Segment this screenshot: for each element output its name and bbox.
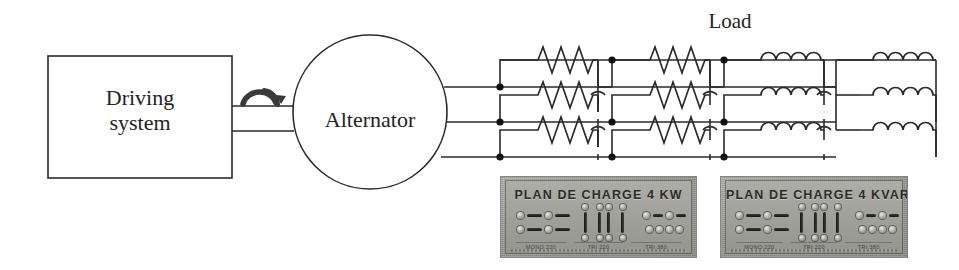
vertical-link-icon[interactable] [835,204,841,241]
socket-icon[interactable] [889,226,896,233]
diagram-canvas: Driving system Alternator Load PLAN DE C… [0,0,959,270]
socket-icon[interactable] [643,212,650,219]
link-bar-icon[interactable] [676,214,686,217]
panel-kw-group-tri220[interactable] [575,207,633,237]
load-title: Load [660,10,800,34]
panel-kw-group-tri380[interactable] [633,207,696,237]
panel-faceplate: PLAN DE CHARGE 4 KW [506,181,691,253]
inductor-bank-2 [836,53,936,158]
socket-icon[interactable] [879,226,886,233]
driving-system-label-line2: system [48,111,232,136]
socket-icon[interactable] [736,212,743,219]
socket-icon[interactable] [545,212,552,219]
rotation-arrow-icon [243,90,286,105]
panel-kvar-title: PLAN DE CHARGE 4 KVAR [726,188,902,202]
socket-icon[interactable] [666,212,673,219]
socket-icon[interactable] [764,226,771,233]
link-bar-icon[interactable] [746,228,761,231]
link-bar-icon[interactable] [774,228,789,231]
socket-icon[interactable] [856,212,863,219]
panel-kvar-bottom-strip [731,249,897,252]
panel-kvar-controls [732,207,896,237]
resistor-bank-2 [612,47,724,160]
vertical-link-pair-icon[interactable] [597,204,612,241]
socket-icon[interactable] [666,226,673,233]
vertical-link-icon[interactable] [799,204,805,241]
link-bar-icon[interactable] [527,228,542,231]
vertical-link-icon[interactable] [582,204,588,241]
socket-icon[interactable] [656,226,663,233]
panel-kw-bottom-strip [511,249,686,252]
socket-icon[interactable] [517,226,524,233]
link-bar-icon[interactable] [889,214,899,217]
load-panel-kvar[interactable]: PLAN DE CHARGE 4 KVAR [720,176,908,258]
link-bar-icon[interactable] [774,214,789,217]
alternator-label: Alternator [280,108,460,133]
driving-system-label: Driving system [48,86,232,135]
socket-icon[interactable] [764,212,771,219]
socket-icon[interactable] [869,226,876,233]
socket-icon[interactable] [859,226,866,233]
socket-icon[interactable] [545,226,552,233]
panel-faceplate: PLAN DE CHARGE 4 KVAR [726,181,902,253]
panel-kvar-group-tri380[interactable] [847,207,907,237]
panel-kvar-group-tri220[interactable] [792,207,847,237]
load-panel-kw[interactable]: PLAN DE CHARGE 4 KW [500,176,697,258]
panel-kw-group-mono[interactable] [512,207,575,237]
panel-kw-title: PLAN DE CHARGE 4 KW [506,188,691,202]
panel-kvar-group-mono[interactable] [732,207,792,237]
driving-system-label-line1: Driving [48,86,232,111]
vertical-link-icon[interactable] [620,204,626,241]
link-bar-icon[interactable] [746,214,761,217]
resistor-bank-1 [500,47,612,160]
link-bar-icon[interactable] [555,214,570,217]
link-bar-icon[interactable] [653,214,663,217]
socket-icon[interactable] [879,212,886,219]
socket-icon[interactable] [646,226,653,233]
panel-kw-controls [512,207,685,237]
vertical-link-pair-icon[interactable] [812,204,827,241]
link-bar-icon[interactable] [555,228,570,231]
socket-icon[interactable] [676,226,683,233]
inductor-bank-1 [724,53,836,161]
socket-icon[interactable] [517,212,524,219]
socket-icon[interactable] [736,226,743,233]
link-bar-icon[interactable] [866,214,876,217]
link-bar-icon[interactable] [527,214,542,217]
